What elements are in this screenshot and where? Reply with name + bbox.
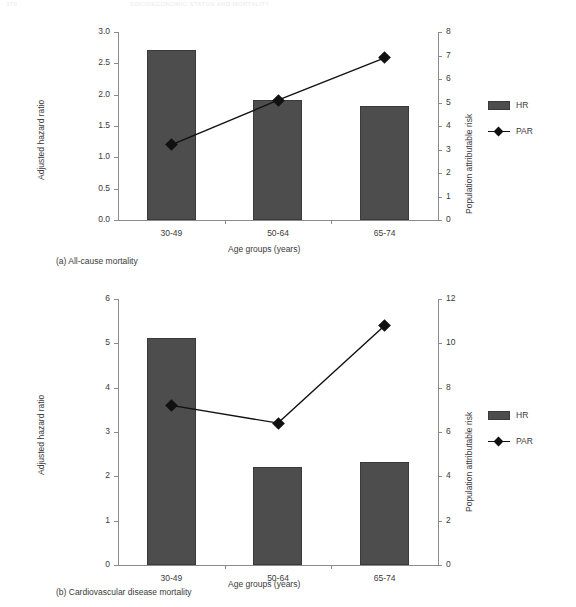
figure-page: 370 SOCIOECONOMIC STATUS AND MORTALITY A…: [0, 0, 576, 607]
par-line: [0, 0, 576, 607]
chart-panel-b: Adjusted hazard ratio Population attribu…: [0, 0, 576, 607]
